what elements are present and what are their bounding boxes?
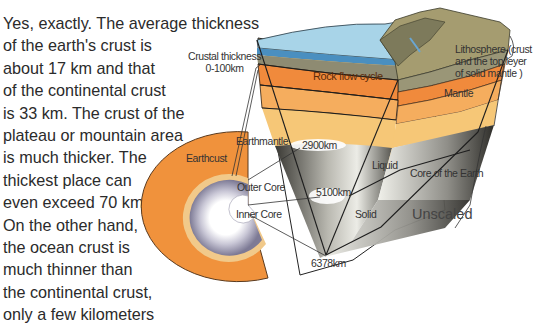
- label-crustal-thickness: Crustal thickness 0-100km: [188, 50, 261, 74]
- label-depth-6378: 6378km: [311, 257, 346, 269]
- label-earthcust: Earthcust: [186, 152, 227, 164]
- label-lithosphere: Lithosphere (crust and the top leyer of …: [455, 43, 532, 79]
- label-depth-2900: 2900km: [302, 139, 337, 151]
- label-rock-flow-cycle: Rock flow cycle: [313, 70, 383, 82]
- label-core-of-earth: Core of the Earth: [410, 167, 483, 179]
- label-lithosphere-line: and the top leyer: [455, 55, 532, 67]
- label-earthmantle: Earthmantle: [236, 135, 288, 147]
- label-lithosphere-line: Lithosphere (crust: [455, 43, 532, 55]
- label-unscaled: Unscaled: [412, 208, 472, 220]
- label-liquid: Liquid: [372, 159, 398, 171]
- label-depth-5100: 5100km: [316, 186, 351, 198]
- label-solid: Solid: [355, 208, 376, 220]
- label-inner-core: Inner Core: [236, 208, 282, 220]
- paragraph-line: only a few kilometers: [3, 303, 253, 325]
- label-lithosphere-line: of solid mantle ): [455, 67, 532, 79]
- label-crustal-thickness-title: Crustal thickness: [188, 50, 261, 62]
- label-mantle: Mantle: [444, 87, 473, 99]
- label-outer-core: Outer Core: [237, 181, 285, 193]
- label-crustal-thickness-range: 0-100km: [188, 62, 261, 74]
